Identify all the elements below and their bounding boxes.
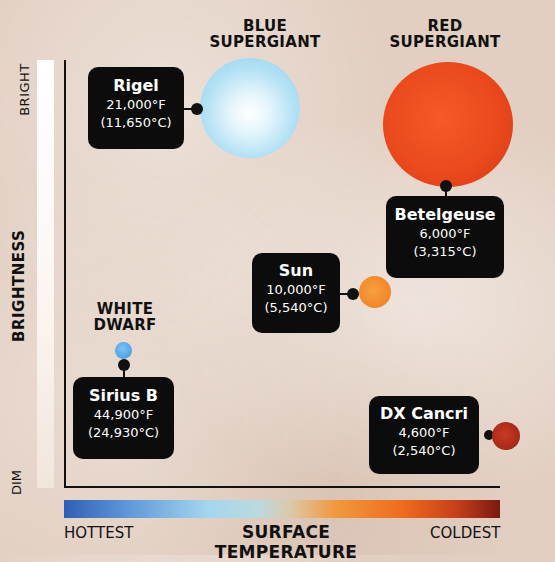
label-line: WHITE — [80, 301, 170, 317]
label-line: DWARF — [80, 317, 170, 333]
sirius-b-star — [115, 342, 132, 359]
temp-f: 21,000°F — [88, 96, 184, 114]
y-axis-top-label: BRIGHT — [17, 60, 32, 120]
brightness-gradient-strip — [37, 60, 54, 488]
temp-c: (24,930°C) — [73, 424, 174, 442]
dx-cancri-star — [492, 422, 520, 450]
connector-line — [123, 369, 125, 377]
sun-info-box: Sun 10,000°F (5,540°C) — [252, 253, 340, 333]
x-axis-title: SURFACE TEMPERATURE — [172, 522, 400, 562]
star-name: Sirius B — [73, 386, 174, 406]
x-axis-left-label: HOTTEST — [64, 524, 133, 542]
sirius-b-info-box: Sirius B 44,900°F (24,930°C) — [73, 377, 174, 459]
y-axis-bottom-label: DIM — [9, 463, 24, 503]
star-name: Betelgeuse — [386, 205, 504, 225]
blue-supergiant-label: BLUE SUPERGIANT — [205, 18, 325, 50]
betelgeuse-star — [383, 62, 513, 187]
rigel-info-box: Rigel 21,000°F (11,650°C) — [88, 67, 184, 149]
temperature-gradient-bar — [64, 500, 500, 518]
dx-cancri-info-box: DX Cancri 4,600°F (2,540°C) — [369, 396, 479, 474]
sun-star — [359, 276, 391, 308]
label-line: SUPERGIANT — [380, 34, 510, 50]
temp-f: 10,000°F — [252, 281, 340, 299]
sun-marker-dot — [347, 288, 359, 300]
red-supergiant-label: RED SUPERGIANT — [380, 18, 510, 50]
temp-c: (2,540°C) — [369, 442, 479, 460]
y-axis-title: BRIGHTNESS — [10, 232, 28, 342]
label-line: RED — [380, 18, 510, 34]
rigel-marker-dot — [191, 103, 203, 115]
temp-c: (11,650°C) — [88, 114, 184, 132]
betelgeuse-info-box: Betelgeuse 6,000°F (3,315°C) — [386, 196, 504, 278]
star-name: Rigel — [88, 76, 184, 96]
label-line: BLUE — [205, 18, 325, 34]
temp-f: 44,900°F — [73, 406, 174, 424]
rigel-star — [200, 58, 300, 158]
y-axis-line — [64, 60, 66, 488]
x-axis-right-label: COLDEST — [430, 524, 500, 542]
label-line: SUPERGIANT — [205, 34, 325, 50]
temp-f: 4,600°F — [369, 424, 479, 442]
temp-f: 6,000°F — [386, 225, 504, 243]
white-dwarf-label: WHITE DWARF — [80, 301, 170, 333]
x-axis-line — [64, 486, 500, 488]
star-name: DX Cancri — [369, 404, 479, 424]
temp-c: (3,315°C) — [386, 243, 504, 261]
star-name: Sun — [252, 261, 340, 281]
temp-c: (5,540°C) — [252, 299, 340, 317]
